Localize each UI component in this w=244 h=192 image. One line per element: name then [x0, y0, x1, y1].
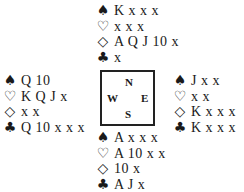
south-diamonds: ◇10 x	[96, 161, 166, 177]
north-hand: ♠K x x x ♡x x x ◇A Q J 10 x ♣x	[96, 3, 179, 65]
heart-icon: ♡	[3, 89, 17, 105]
club-icon: ♣	[3, 120, 17, 136]
east-hand: ♠J x x ♡x x ◇K x x x ♣K x x x	[173, 73, 236, 135]
west-hearts: ♡K Q J x	[3, 89, 85, 105]
north-clubs: ♣x	[96, 50, 179, 66]
east-hearts: ♡x x	[173, 89, 236, 105]
heart-icon: ♡	[173, 89, 187, 105]
club-icon: ♣	[96, 177, 110, 192]
north-hearts: ♡x x x	[96, 19, 179, 35]
north-diamonds: ◇A Q J 10 x	[96, 34, 179, 50]
compass-west: W	[107, 92, 118, 104]
south-clubs: ♣A J x	[96, 177, 166, 192]
west-diamonds: ◇x x	[3, 104, 85, 120]
compass-north: N	[125, 76, 133, 88]
west-spades: ♠Q 10	[3, 73, 85, 89]
club-icon: ♣	[96, 50, 110, 66]
club-icon: ♣	[173, 120, 187, 136]
compass-east: E	[141, 92, 148, 104]
heart-icon: ♡	[96, 146, 110, 162]
spade-icon: ♠	[3, 73, 17, 89]
diamond-icon: ◇	[96, 34, 110, 50]
east-spades: ♠J x x	[173, 73, 236, 89]
compass-south: S	[125, 108, 131, 120]
diamond-icon: ◇	[3, 104, 17, 120]
spade-icon: ♠	[173, 73, 187, 89]
spade-icon: ♠	[96, 3, 110, 19]
east-clubs: ♣K x x x	[173, 120, 236, 136]
spade-icon: ♠	[96, 130, 110, 146]
diamond-icon: ◇	[96, 161, 110, 177]
south-spades: ♠A x x x	[96, 130, 166, 146]
north-spades: ♠K x x x	[96, 3, 179, 19]
heart-icon: ♡	[96, 19, 110, 35]
east-diamonds: ◇K x x x	[173, 104, 236, 120]
south-hand: ♠A x x x ♡A 10 x x ◇10 x ♣A J x	[96, 130, 166, 191]
compass-box: N W E S	[100, 70, 155, 126]
diamond-icon: ◇	[173, 104, 187, 120]
west-hand: ♠Q 10 ♡K Q J x ◇x x ♣Q 10 x x x	[3, 73, 85, 135]
west-clubs: ♣Q 10 x x x	[3, 120, 85, 136]
south-hearts: ♡A 10 x x	[96, 146, 166, 162]
